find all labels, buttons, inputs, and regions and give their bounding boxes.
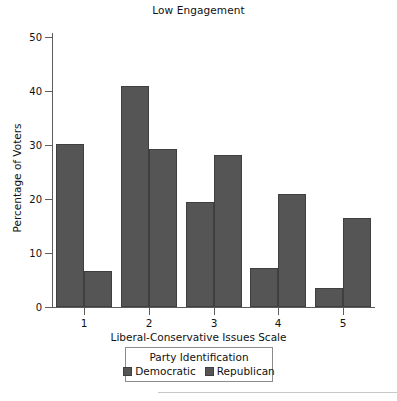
chart-title: Low Engagement [0, 4, 397, 16]
y-tick-label: 0 [2, 302, 42, 313]
y-axis-title: Percentage of Voters [11, 98, 23, 258]
y-tick-mark [45, 91, 52, 92]
bar-democratic-5 [315, 288, 343, 307]
y-tick-label: 10 [2, 248, 42, 259]
bar-republican-2 [149, 149, 177, 307]
bar-democratic-3 [186, 202, 214, 307]
y-tick-label: 50 [2, 32, 42, 43]
x-tick-mark [343, 308, 344, 315]
legend-items: DemocraticRepublican [132, 365, 266, 377]
y-tick-mark [45, 253, 52, 254]
bar-democratic-1 [56, 144, 84, 307]
x-tick-mark [149, 308, 150, 315]
legend-label-republican: Republican [217, 365, 275, 377]
legend-label-democratic: Democratic [135, 365, 196, 377]
y-tick-mark [45, 145, 52, 146]
x-tick-label: 5 [323, 317, 363, 329]
y-tick-mark [45, 307, 52, 308]
y-tick-mark [45, 37, 52, 38]
y-tick-mark [45, 199, 52, 200]
x-axis-title: Liberal-Conservative Issues Scale [0, 331, 397, 343]
x-tick-label: 2 [129, 317, 169, 329]
x-tick-label: 3 [194, 317, 234, 329]
x-tick-label: 4 [258, 317, 298, 329]
y-tick-label: 40 [2, 86, 42, 97]
x-tick-label: 1 [64, 317, 104, 329]
bars-layer [52, 33, 375, 307]
bottom-rule-divider [158, 392, 397, 393]
y-tick-label: 20 [2, 194, 42, 205]
y-tick-label: 30 [2, 140, 42, 151]
bar-democratic-2 [121, 86, 149, 307]
legend-item-republican: Republican [205, 365, 275, 377]
legend-item-democratic: Democratic [123, 365, 196, 377]
x-tick-mark [84, 308, 85, 315]
legend-swatch-democratic [123, 367, 132, 376]
legend: Party Identification DemocraticRepublica… [125, 347, 273, 382]
bar-republican-4 [278, 194, 306, 307]
bar-republican-5 [343, 218, 371, 307]
bar-republican-3 [214, 155, 242, 307]
legend-title: Party Identification [132, 351, 266, 363]
legend-swatch-republican [205, 367, 214, 376]
bar-democratic-4 [250, 268, 278, 307]
x-tick-mark [214, 308, 215, 315]
x-tick-mark [278, 308, 279, 315]
bar-republican-1 [84, 271, 112, 307]
